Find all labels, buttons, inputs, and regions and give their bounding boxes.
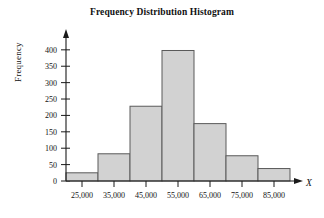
- x-tick-label: 35,000: [103, 191, 125, 200]
- histogram-bar: [194, 124, 226, 181]
- y-tick-label: 50: [49, 161, 57, 170]
- histogram-bar: [66, 173, 98, 181]
- histogram-bar: [98, 154, 130, 181]
- x-tick-label: 75,000: [231, 191, 253, 200]
- x-tick-label: 45,000: [135, 191, 157, 200]
- histogram-bar: [162, 50, 194, 181]
- x-tick-label: 65,000: [199, 191, 221, 200]
- bar-series: [66, 50, 290, 181]
- y-tick-label: 150: [45, 128, 57, 137]
- y-tick-label: 0: [53, 177, 57, 186]
- histogram-chart: Frequency Distribution Histogram Frequen…: [0, 0, 324, 218]
- x-tick-label: 55,000: [167, 191, 189, 200]
- x-tick-label: 25,000: [71, 191, 93, 200]
- y-tick-label: 350: [45, 62, 57, 71]
- y-tick-label: 300: [45, 79, 57, 88]
- y-tick-label: 400: [45, 46, 57, 55]
- histogram-bar: [226, 156, 258, 181]
- x-axis-ticks: 25,00035,00045,00055,00065,00075,00085,0…: [71, 181, 285, 200]
- plot-area: 050100150200250300350400 25,00035,00045,…: [0, 0, 324, 218]
- x-axis-arrowhead: [294, 178, 303, 184]
- x-tick-label: 85,000: [263, 191, 285, 200]
- y-tick-label: 100: [45, 144, 57, 153]
- y-axis-arrowhead: [63, 29, 69, 38]
- y-tick-label: 250: [45, 95, 57, 104]
- histogram-bar: [258, 169, 290, 181]
- y-tick-label: 200: [45, 111, 57, 120]
- histogram-bar: [130, 106, 162, 181]
